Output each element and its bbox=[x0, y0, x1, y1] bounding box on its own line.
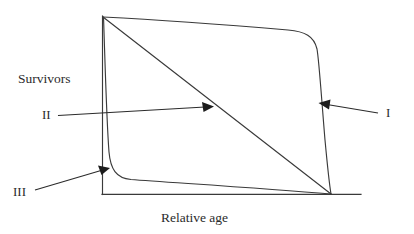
survivorship-curve-figure: I II III Survivors Relative age bbox=[0, 0, 414, 234]
curve-label-two: II bbox=[42, 107, 51, 122]
curve-label-one: I bbox=[386, 105, 390, 120]
annotation-type-one: I bbox=[319, 100, 391, 121]
survivorship-curve-svg: I II III Survivors Relative age bbox=[0, 0, 414, 234]
leader-line-two bbox=[58, 107, 205, 116]
curve-type-two bbox=[103, 17, 331, 194]
annotation-type-two: II bbox=[42, 102, 214, 122]
y-axis-label: Survivors bbox=[18, 71, 71, 86]
annotation-type-three: III bbox=[13, 166, 110, 200]
arrowhead-two bbox=[202, 102, 214, 112]
x-axis-label: Relative age bbox=[161, 210, 228, 225]
arrowhead-one bbox=[319, 100, 331, 110]
leader-line-one bbox=[327, 105, 378, 114]
arrowhead-three bbox=[98, 166, 110, 176]
curve-label-three: III bbox=[13, 184, 26, 199]
leader-line-three bbox=[35, 171, 101, 191]
